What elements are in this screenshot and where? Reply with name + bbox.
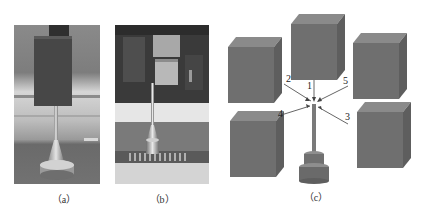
probe-pedestal	[299, 151, 329, 184]
cube-bottom-left	[230, 111, 284, 177]
direction-label-5: 5	[343, 75, 348, 86]
cube-bottom-right	[357, 102, 411, 168]
photo-b-image	[115, 25, 209, 184]
direction-label-1: 1	[307, 80, 312, 91]
direction-label-4: 4	[278, 108, 283, 119]
direction-label-2: 2	[286, 73, 291, 84]
direction-label-3: 3	[345, 111, 350, 122]
cube-top-center	[291, 14, 345, 80]
photo-panel-a	[14, 25, 100, 184]
diagram-panel-c: 1 2 3 4 5	[214, 0, 428, 218]
caption-b: （b）	[142, 191, 182, 206]
probe-stem	[312, 104, 316, 154]
cube-top-right	[353, 33, 407, 99]
caption-c: （c）	[296, 189, 336, 204]
diagram-c-svg: 1 2 3 4 5	[214, 0, 428, 218]
photo-panel-b	[115, 25, 209, 184]
cube-top-left	[228, 37, 282, 103]
caption-a: （a）	[44, 191, 84, 206]
photo-a-image	[14, 25, 100, 184]
